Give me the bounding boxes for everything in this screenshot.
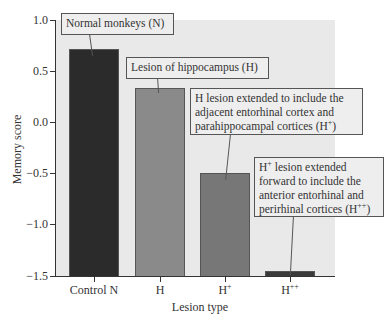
y-tick-label: 0.5 xyxy=(4,65,48,77)
x-axis-label: Lesion type xyxy=(120,300,280,315)
bar-control-n xyxy=(69,49,119,277)
y-tick-label: −1.0 xyxy=(4,218,48,230)
x-tick-label: H++ xyxy=(250,283,330,298)
y-tick xyxy=(50,122,56,123)
x-axis xyxy=(55,276,335,277)
y-tick xyxy=(50,20,56,21)
y-tick xyxy=(50,71,56,72)
y-axis-label: Memory score xyxy=(10,105,25,195)
y-tick xyxy=(50,224,56,225)
x-tick xyxy=(160,277,161,282)
callout-h-plus: H lesion extended to include the adjacen… xyxy=(190,88,363,135)
x-tick xyxy=(225,277,226,282)
y-tick-label: 1.0 xyxy=(4,14,48,26)
bar-h-plus xyxy=(200,173,250,277)
y-tick xyxy=(50,173,56,174)
callout-h-plus-plus: H+ lesion extended forward to include th… xyxy=(254,157,384,217)
callout-hippocampus: Lesion of hippocampus (H) xyxy=(126,57,269,79)
y-tick-label: −1.5 xyxy=(4,270,48,282)
y-tick xyxy=(50,276,56,277)
bar-h xyxy=(135,88,185,277)
y-axis xyxy=(55,20,56,277)
x-tick xyxy=(94,277,95,282)
callout-normal: Normal monkeys (N) xyxy=(61,13,174,35)
